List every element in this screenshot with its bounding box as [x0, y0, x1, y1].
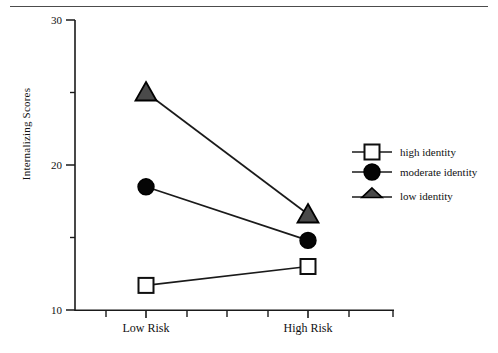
data-point-markers — [136, 82, 319, 293]
series-line-high-identity — [146, 267, 308, 286]
legend-label-high-identity: high identity — [400, 146, 456, 158]
legend-label-low-identity: low identity — [400, 190, 453, 202]
axis-lines — [75, 20, 394, 311]
series-line-moderate-identity — [146, 187, 308, 241]
square-marker-high-identity-high-risk — [301, 259, 316, 274]
x-axis-ticks — [106, 310, 393, 318]
legend-square-marker — [365, 145, 380, 160]
triangle-marker-low-identity-high-risk — [298, 204, 319, 223]
series-lines — [146, 93, 308, 286]
circle-marker-moderate-identity-high-risk — [300, 232, 316, 248]
square-marker-high-identity-low-risk — [139, 278, 154, 293]
legend-circle-marker — [364, 164, 380, 180]
legend-markers — [352, 145, 392, 198]
circle-marker-moderate-identity-low-risk — [138, 179, 154, 195]
chart-figure: Internalizing Scores 30 20 10 Low Risk H… — [0, 0, 498, 353]
series-line-low-identity — [146, 93, 308, 215]
y-axis-major-ticks — [66, 20, 75, 310]
triangle-marker-low-identity-low-risk — [136, 82, 157, 101]
legend-triangle-marker — [362, 188, 382, 198]
legend-label-moderate-identity: moderate identity — [400, 166, 477, 178]
